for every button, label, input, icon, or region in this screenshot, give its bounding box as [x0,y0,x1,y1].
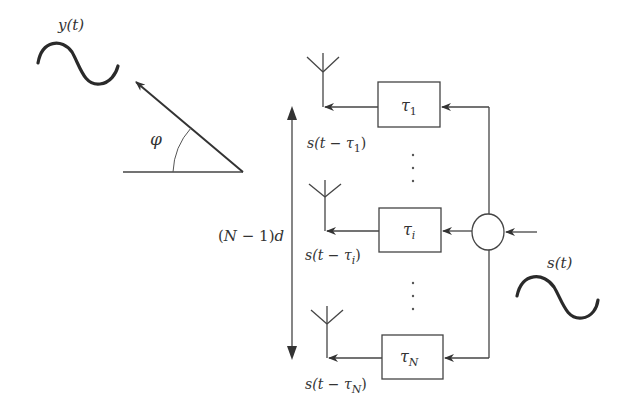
element-output-label: s(t − τN) [305,376,367,396]
array-span-arrow [287,106,297,360]
input-wave-icon [517,277,598,318]
element-output-label: s(t − τ1) [307,135,366,155]
wavefront-direction-arrow [123,82,243,172]
ellipsis-dots [412,282,414,310]
element-output-label: s(t − τi) [305,247,361,267]
output-signal-label: y(t) [57,16,84,34]
array-span-label: (N − 1)d [218,227,284,245]
angle-label: φ [150,129,162,149]
input-signal-label: s(t) [547,254,573,272]
ellipsis-dots [412,154,414,182]
antenna-element-n: τN s(t − τN) [305,306,489,396]
antenna-element-1: τ1 s(t − τ1) [307,53,489,155]
antenna-icon [309,180,341,231]
antenna-icon [311,306,343,358]
output-wave-icon [38,43,118,84]
splitter-node [472,214,504,250]
diagram-svg: y(t) φ (N − 1)d τ1 s(t − τ1) [0,0,631,412]
antenna-icon [307,53,339,107]
diagram-canvas: y(t) φ (N − 1)d τ1 s(t − τ1) [0,0,631,412]
antenna-element-i: τi s(t − τi) [305,180,472,267]
